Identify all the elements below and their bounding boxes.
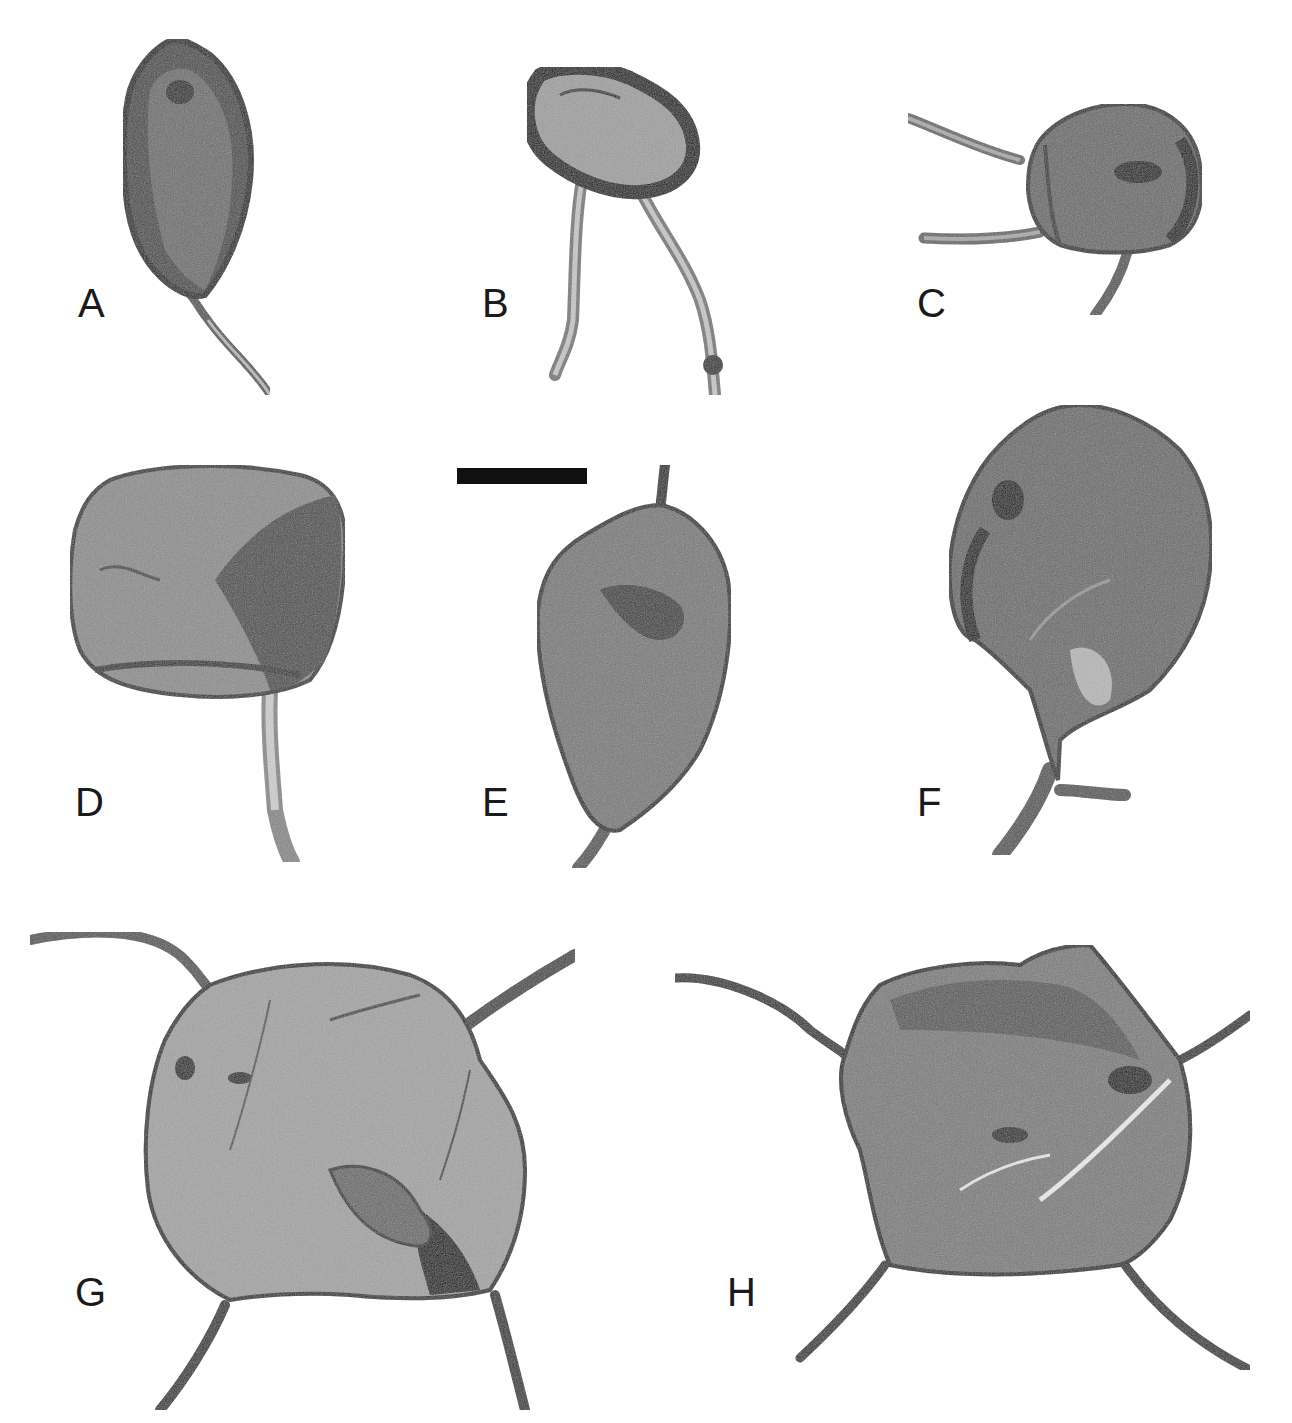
specimen-drawings [0, 0, 1292, 1423]
panel-label-h: H [727, 1272, 756, 1312]
specimen-a [124, 40, 270, 395]
specimen-h [675, 945, 1250, 1370]
specimen-d [70, 466, 345, 862]
fossil-plate: A B C D E F G H [0, 0, 1292, 1423]
specimen-g [30, 933, 575, 1410]
panel-label-a: A [78, 283, 105, 323]
panel-label-c: C [917, 283, 946, 323]
specimen-b [528, 68, 723, 395]
panel-label-g: G [75, 1272, 106, 1312]
panel-label-b: B [482, 283, 509, 323]
specimen-f [950, 405, 1212, 855]
panel-label-f: F [917, 782, 941, 822]
panel-label-e: E [482, 782, 509, 822]
specimen-e [538, 465, 730, 868]
specimen-c [908, 104, 1202, 315]
scale-bar [457, 468, 587, 484]
panel-label-d: D [75, 782, 104, 822]
